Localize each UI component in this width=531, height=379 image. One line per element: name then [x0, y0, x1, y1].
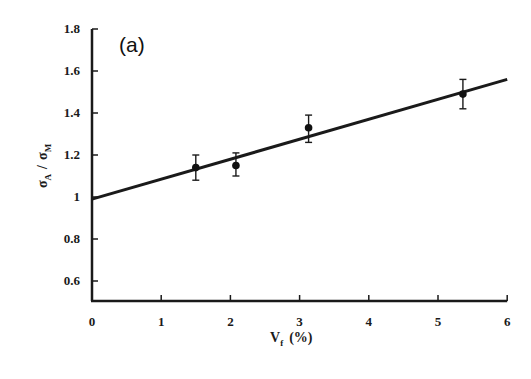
marker-circle — [459, 90, 467, 98]
svg-text:Vf(%): Vf(%) — [270, 330, 313, 348]
y-tick-label: 1.4 — [64, 105, 81, 120]
x-tick-label: 0 — [89, 314, 96, 329]
axes — [91, 29, 507, 301]
panel-label: (a) — [119, 33, 145, 56]
x-tick-label: 4 — [366, 314, 373, 329]
marker-circle — [305, 124, 313, 132]
data-point — [459, 79, 467, 108]
linear-fit-line — [92, 79, 507, 199]
ticks: 0.60.811.21.41.61.80123456 — [64, 21, 511, 329]
chart: 0.60.811.21.41.61.80123456 (a) Vf(%) σA/… — [0, 0, 531, 379]
marker-circle — [232, 162, 240, 170]
marker-circle — [192, 164, 200, 172]
y-tick-label: 1.8 — [64, 21, 81, 36]
y-tick-label: 1 — [74, 189, 81, 204]
x-tick-label: 6 — [504, 314, 511, 329]
fit-line — [92, 79, 507, 199]
y-axis-title: σA/σM — [35, 143, 53, 188]
y-tick-label: 0.8 — [64, 231, 81, 246]
y-tick-label: 0.6 — [64, 273, 81, 288]
svg-text:σA/σM: σA/σM — [35, 143, 53, 188]
x-tick-label: 2 — [227, 314, 234, 329]
y-tick-label: 1.2 — [64, 147, 80, 162]
x-tick-label: 1 — [158, 314, 165, 329]
x-axis-title: Vf(%) — [270, 330, 313, 348]
x-tick-label: 5 — [435, 314, 442, 329]
y-tick-label: 1.6 — [64, 63, 81, 78]
data-point — [192, 155, 200, 180]
x-tick-label: 3 — [296, 314, 303, 329]
